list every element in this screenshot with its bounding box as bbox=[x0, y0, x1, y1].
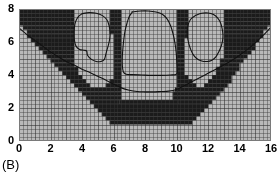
y-tick-8: 8 bbox=[0, 3, 14, 14]
basin-interface-curve bbox=[19, 27, 271, 92]
plot-area bbox=[19, 9, 271, 141]
y-tick-2: 2 bbox=[0, 102, 14, 113]
y-tick-6: 6 bbox=[0, 36, 14, 47]
x-tick-4: 4 bbox=[72, 143, 92, 154]
y-tick-4: 4 bbox=[0, 69, 14, 80]
x-tick-16: 16 bbox=[261, 143, 280, 154]
x-tick-0: 0 bbox=[9, 143, 29, 154]
interface-and-body-outlines bbox=[19, 9, 271, 141]
right-body-outline bbox=[187, 13, 223, 62]
panel-label: (B) bbox=[2, 157, 19, 172]
x-tick-2: 2 bbox=[41, 143, 61, 154]
x-tick-6: 6 bbox=[104, 143, 124, 154]
left-body-outline bbox=[74, 13, 110, 62]
x-tick-8: 8 bbox=[135, 143, 155, 154]
figure-panel: 02468 0246810121416 (B) bbox=[0, 0, 280, 177]
x-tick-12: 12 bbox=[198, 143, 218, 154]
x-tick-14: 14 bbox=[230, 143, 250, 154]
x-tick-10: 10 bbox=[167, 143, 187, 154]
center-body-outline bbox=[122, 11, 177, 76]
